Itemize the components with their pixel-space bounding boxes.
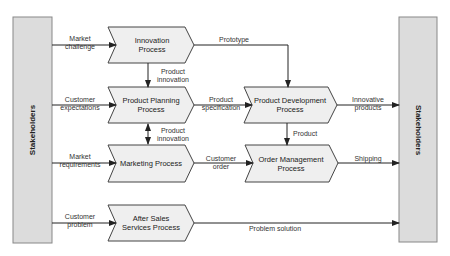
product-planning-process-line-1: Product Planning xyxy=(122,96,179,105)
order-management-process-line-2: Process xyxy=(258,164,323,173)
product-development-process: Product DevelopmentProcess xyxy=(248,87,332,123)
arrow-prototype xyxy=(194,45,288,87)
innovation-process-line-2: Process xyxy=(135,45,170,54)
flow-label-innovative-products: Innovativeproducts xyxy=(345,96,391,112)
flow-label-product-specification: Productspecification xyxy=(198,96,244,112)
flow-label-customer-expectations: Customerexpectations xyxy=(54,96,106,112)
innovation-process: InnovationProcess xyxy=(116,27,188,63)
marketing-process: Marketing Process xyxy=(114,145,188,182)
flow-label-product: Product xyxy=(293,130,323,138)
after-sales-process-line-2: Services Process xyxy=(122,223,180,232)
flow-label-shipping: Shipping xyxy=(348,155,388,163)
product-development-process-line-1: Product Development xyxy=(254,96,326,105)
flow-label-customer-problem: Customerproblem xyxy=(56,213,104,229)
flow-label-problem-solution: Problem solution xyxy=(240,225,310,233)
marketing-process-line-1: Marketing Process xyxy=(120,159,182,168)
flow-label-market-requirements: Marketrequirements xyxy=(54,153,106,169)
order-management-process-line-1: Order Management xyxy=(258,155,323,164)
flow-label-customer-order: Customerorder xyxy=(200,155,242,171)
innovation-process-line-1: Innovation xyxy=(135,36,170,45)
product-planning-process-line-2: Process xyxy=(122,105,179,114)
flow-label-product-innovation-1: Productinnovation xyxy=(153,68,193,84)
after-sales-process: After SalesServices Process xyxy=(114,205,188,241)
product-planning-process: Product PlanningProcess xyxy=(114,87,188,123)
product-development-process-line-2: Process xyxy=(254,105,326,114)
after-sales-process-line-1: After Sales xyxy=(122,214,180,223)
stakeholders-right-label: Stakeholders xyxy=(414,105,423,155)
order-management-process: Order ManagementProcess xyxy=(250,145,332,182)
flow-label-prototype: Prototype xyxy=(214,36,254,44)
stakeholders-left-label: Stakeholders xyxy=(28,105,37,155)
flow-label-market-challenge: Marketchallenge xyxy=(56,35,104,51)
flow-label-product-innovation-2: Productinnovation xyxy=(153,127,193,143)
